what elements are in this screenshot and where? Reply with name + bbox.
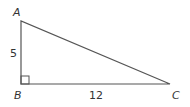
triangle-diagram: A B C 5 12 [0, 0, 190, 107]
vertex-label-b: B [14, 89, 22, 102]
side-label-ab: 5 [10, 47, 17, 60]
vertex-label-c: C [172, 89, 180, 102]
side-label-bc: 12 [89, 89, 103, 102]
triangle-abc [21, 21, 170, 84]
vertex-label-a: A [12, 6, 21, 19]
right-angle-marker [21, 76, 29, 84]
